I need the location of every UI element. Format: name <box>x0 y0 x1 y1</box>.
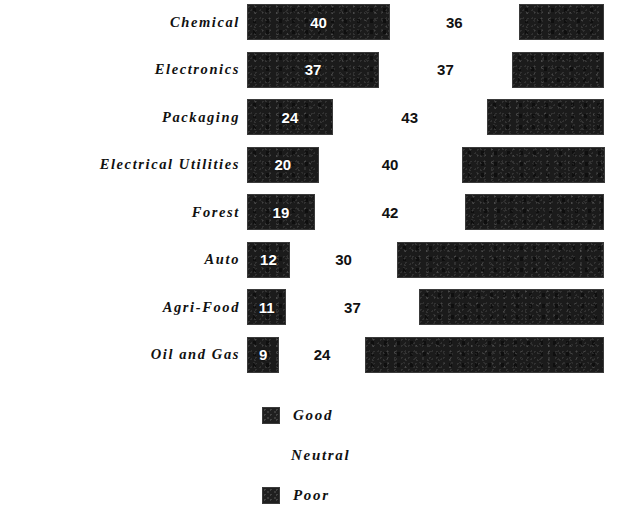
bar-value-neutral: 30 <box>335 252 352 267</box>
bar-segment-good[interactable]: 24 <box>247 99 333 135</box>
bar-segment-neutral[interactable]: 30 <box>290 242 397 278</box>
row-bars: 924 <box>247 336 630 374</box>
legend-swatch-poor-icon <box>262 487 280 504</box>
bar-segment-good[interactable]: 11 <box>247 289 286 325</box>
bar-segment-neutral[interactable]: 24 <box>279 337 365 373</box>
bar-value-good: 37 <box>305 62 322 77</box>
legend-swatch-good-icon <box>262 407 280 424</box>
bar-value-good: 12 <box>260 252 277 267</box>
row-label-agri-food: Agri-Food <box>0 288 243 326</box>
bar-segment-poor[interactable] <box>465 194 604 230</box>
row-bars: 2443 <box>247 98 630 136</box>
bar-value-good: 24 <box>282 110 299 125</box>
bar-segment-neutral[interactable]: 43 <box>333 99 487 135</box>
chart-row: Chemical4036 <box>0 3 630 41</box>
row-label-chemical: Chemical <box>0 3 243 41</box>
row-bars: 1942 <box>247 193 630 231</box>
bar-segment-poor[interactable] <box>419 289 605 325</box>
row-label-auto: Auto <box>0 241 243 279</box>
bar-chart: Chemical4036Electronics3737Packaging2443… <box>0 0 630 516</box>
bar-segment-poor[interactable] <box>365 337 605 373</box>
bar-segment-neutral[interactable]: 40 <box>319 147 462 183</box>
chart-row: Agri-Food1137 <box>0 288 630 326</box>
row-bars: 2040 <box>247 146 630 184</box>
bar-segment-neutral[interactable]: 42 <box>315 194 465 230</box>
bar-value-neutral: 36 <box>446 15 463 30</box>
legend-label-good: Good <box>293 407 333 424</box>
row-bars: 4036 <box>247 3 630 41</box>
bar-value-good: 40 <box>310 15 327 30</box>
row-bars: 3737 <box>247 51 630 89</box>
row-bars: 1230 <box>247 241 630 279</box>
bar-segment-poor[interactable] <box>462 147 605 183</box>
bar-segment-good[interactable]: 12 <box>247 242 290 278</box>
legend-item-poor[interactable]: Poor <box>262 482 330 508</box>
bar-value-good: 11 <box>259 300 275 315</box>
bar-segment-good[interactable]: 20 <box>247 147 319 183</box>
row-bars: 1137 <box>247 288 630 326</box>
bar-value-neutral: 40 <box>382 157 399 172</box>
bar-segment-good[interactable]: 37 <box>247 52 379 88</box>
chart-row: Packaging2443 <box>0 98 630 136</box>
bar-value-neutral: 24 <box>314 347 331 362</box>
bar-segment-good[interactable]: 19 <box>247 194 315 230</box>
bar-segment-neutral[interactable]: 37 <box>379 52 511 88</box>
row-label-electrical-utilities: Electrical Utilities <box>0 146 243 184</box>
row-label-electronics: Electronics <box>0 51 243 89</box>
bar-segment-poor[interactable] <box>512 52 605 88</box>
bar-segment-good[interactable]: 40 <box>247 4 390 40</box>
bar-value-neutral: 37 <box>437 62 454 77</box>
legend-label-poor: Poor <box>293 487 330 504</box>
bar-segment-neutral[interactable]: 36 <box>390 4 519 40</box>
bar-value-good: 9 <box>259 347 267 362</box>
chart-row: Forest1942 <box>0 193 630 231</box>
chart-row: Oil and Gas924 <box>0 336 630 374</box>
bar-value-neutral: 42 <box>382 205 399 220</box>
row-label-forest: Forest <box>0 193 243 231</box>
bar-value-good: 20 <box>274 157 291 172</box>
row-label-packaging: Packaging <box>0 98 243 136</box>
bar-segment-poor[interactable] <box>487 99 605 135</box>
bar-value-good: 19 <box>273 205 290 220</box>
bar-segment-poor[interactable] <box>519 4 605 40</box>
chart-legend: Good Neutral Poor <box>0 398 630 516</box>
chart-row: Electrical Utilities2040 <box>0 146 630 184</box>
bar-value-neutral: 43 <box>401 110 418 125</box>
legend-label-neutral: Neutral <box>291 447 350 464</box>
chart-row: Electronics3737 <box>0 51 630 89</box>
bar-segment-good[interactable]: 9 <box>247 337 279 373</box>
legend-item-neutral[interactable]: Neutral <box>291 442 350 468</box>
legend-item-good[interactable]: Good <box>262 402 333 428</box>
bar-segment-poor[interactable] <box>397 242 604 278</box>
chart-row: Auto1230 <box>0 241 630 279</box>
bar-segment-neutral[interactable]: 37 <box>286 289 418 325</box>
bar-value-neutral: 37 <box>344 300 361 315</box>
row-label-oil-and-gas: Oil and Gas <box>0 336 243 374</box>
